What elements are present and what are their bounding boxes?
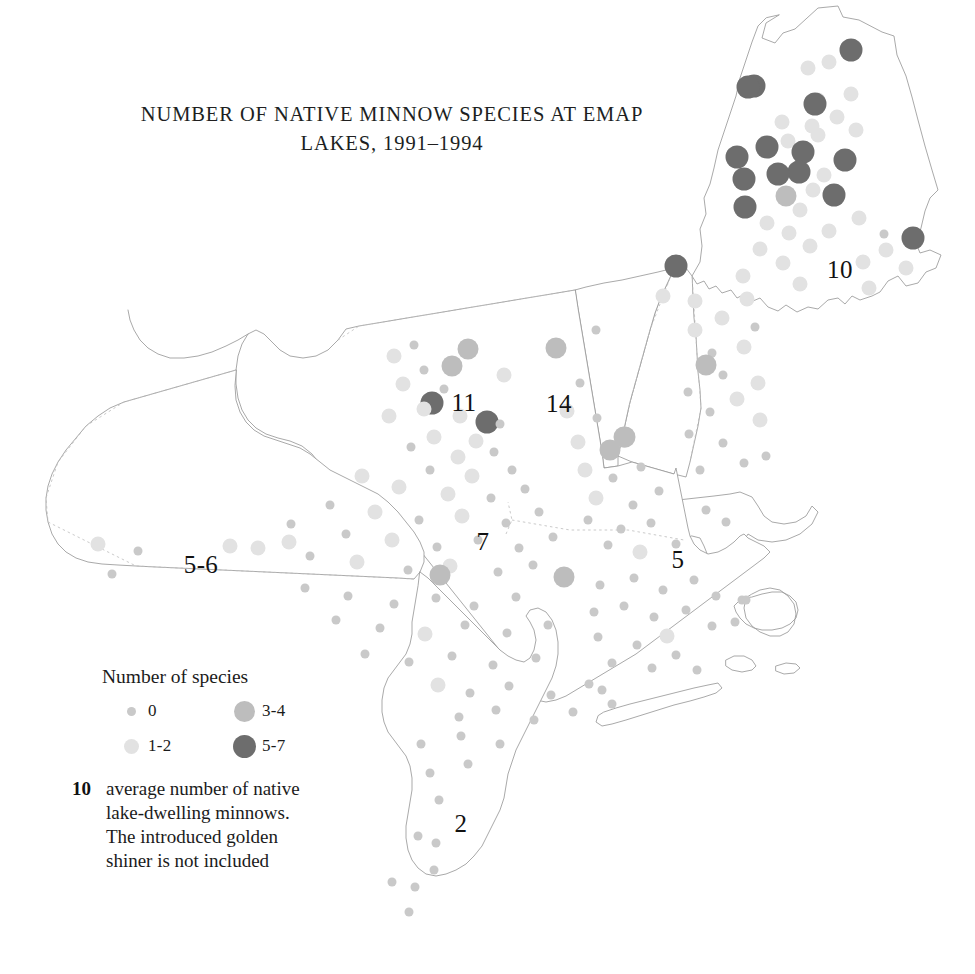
legend-dot-3-4-icon — [234, 701, 255, 722]
lake-dot — [660, 629, 675, 644]
lake-dot — [647, 519, 656, 528]
lake-dot — [598, 686, 607, 695]
lake-dot — [849, 123, 864, 138]
lake-dot — [899, 261, 914, 276]
lake-dot — [407, 443, 416, 452]
lake-dot — [414, 832, 423, 841]
legend-label-5-7: 5-7 — [262, 736, 402, 756]
lake-dot — [803, 239, 818, 254]
lake-dot — [879, 243, 894, 258]
lake-dot — [405, 658, 414, 667]
lake-dot — [756, 136, 779, 159]
lake-dot — [451, 450, 466, 465]
state-outline-marthas-vineyard — [726, 656, 756, 672]
lake-dot — [470, 602, 479, 611]
legend-note-line-2: lake-dwelling minnows. — [106, 801, 300, 825]
lake-dot — [376, 624, 385, 633]
state-outline-new-jersey — [382, 572, 558, 876]
lake-dot — [792, 141, 815, 164]
lake-dot — [608, 659, 617, 668]
lake-dot — [466, 689, 475, 698]
lake-dot — [844, 87, 859, 102]
legend-heading: Number of species — [102, 666, 402, 688]
lake-dot — [726, 146, 749, 169]
legend-note-number: 10 — [72, 777, 106, 800]
lake-dot — [464, 760, 473, 769]
lake-dot — [608, 700, 617, 709]
lake-dot — [696, 355, 717, 376]
lake-dot — [736, 269, 751, 284]
lake-dot — [355, 469, 370, 484]
minnow-species-map-page: NUMBER OF NATIVE MINNOW SPECIES AT EMAP … — [0, 0, 975, 974]
lake-dot — [751, 376, 766, 391]
lake-dot — [490, 448, 499, 457]
lake-dot — [417, 402, 432, 417]
lake-dot — [672, 651, 681, 660]
lake-dot — [433, 543, 442, 552]
lake-dot — [655, 487, 664, 496]
lake-dot — [521, 485, 530, 494]
lake-dot — [656, 289, 671, 304]
legend-label-1-2: 1-2 — [148, 736, 226, 756]
legend-dot-0-icon — [127, 707, 136, 716]
lake-dot — [396, 377, 411, 392]
lake-dot — [91, 537, 106, 552]
lake-dot — [731, 618, 740, 627]
lake-dot — [822, 55, 837, 70]
lake-dot — [637, 463, 646, 472]
lake-dot — [368, 505, 383, 520]
lake-dot — [880, 230, 889, 239]
lake-dot — [830, 110, 845, 125]
lake-dot — [405, 908, 414, 917]
lake-dot — [529, 561, 538, 570]
lake-dot — [733, 168, 756, 191]
legend-note-text: average number of native lake-dwelling m… — [106, 777, 300, 874]
lake-dot — [457, 732, 466, 741]
lake-dot — [722, 518, 731, 527]
lake-dot — [571, 435, 586, 450]
legend-swatch-0 — [114, 698, 148, 724]
lake-dot — [332, 616, 341, 625]
lake-dot — [497, 368, 512, 383]
lake-dot — [492, 706, 501, 715]
lake-dot — [584, 516, 593, 525]
lake-dot — [430, 866, 439, 875]
lake-dot — [589, 491, 604, 506]
lake-dot — [592, 326, 601, 335]
legend-note-line-1: average number of native — [106, 777, 300, 801]
lake-dot — [593, 414, 602, 423]
lake-dot — [515, 544, 524, 553]
legend-dot-5-7-icon — [233, 735, 256, 758]
lake-dot — [706, 408, 715, 417]
lake-dot — [502, 519, 511, 528]
lake-dot — [776, 256, 791, 271]
lake-dot — [685, 430, 694, 439]
lake-dot — [740, 459, 749, 468]
lake-dot — [287, 520, 296, 529]
lake-dot — [532, 654, 541, 663]
lake-dot — [585, 680, 594, 689]
lake-dot — [862, 281, 877, 296]
lake-dot — [430, 565, 451, 586]
lake-dot — [326, 501, 335, 510]
legend-note-line-4: shiner is not included — [106, 849, 300, 873]
lake-dot — [547, 691, 556, 700]
lake-dot — [648, 664, 657, 673]
legend-dot-1-2-icon — [124, 739, 139, 754]
region-average-label-massachusetts: 5 — [672, 546, 685, 574]
state-outline-nantucket — [776, 663, 800, 674]
lake-dot — [822, 224, 837, 239]
lake-dot — [387, 349, 402, 364]
lake-dot — [852, 211, 867, 226]
lake-dot — [840, 39, 863, 62]
lake-dot — [554, 567, 575, 588]
legend-note-line-3: The introduced golden — [106, 825, 300, 849]
lake-dot — [782, 226, 797, 241]
lake-dot — [801, 61, 816, 76]
lake-dot — [420, 366, 429, 375]
legend-label-0: 0 — [148, 701, 226, 721]
lake-dot — [404, 566, 413, 575]
lake-dot — [503, 629, 512, 638]
lake-dot — [426, 466, 435, 475]
lake-dot — [496, 420, 505, 429]
